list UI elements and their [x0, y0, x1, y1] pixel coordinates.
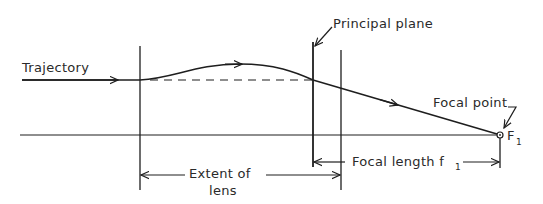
lens-diagram: Trajectory Principal plane Focal point F…: [0, 0, 543, 204]
focal-point-label: Focal point: [433, 95, 507, 110]
focal-length-subscript: 1: [455, 162, 461, 172]
extent-of-lens-label-line2: lens: [209, 183, 237, 198]
extent-of-lens-label-line1: Extent of: [189, 166, 251, 181]
focal-symbol-label: F: [507, 128, 515, 143]
curved-trajectory: [140, 64, 313, 80]
focal-symbol-subscript: 1: [516, 137, 522, 147]
trajectory-label: Trajectory: [21, 60, 89, 75]
focal-point-dot: [499, 134, 501, 136]
principal-plane-leader: [315, 27, 332, 46]
outgoing-arrow: [380, 100, 398, 105]
principal-plane-label: Principal plane: [333, 16, 433, 31]
focal-length-label: Focal length f: [352, 154, 444, 169]
focal-point-leader: [504, 107, 516, 128]
